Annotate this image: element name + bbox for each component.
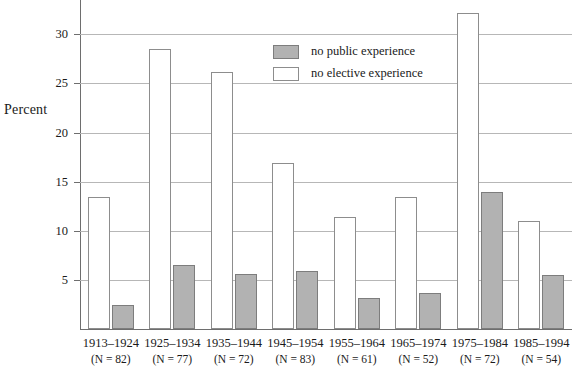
y-axis-tick-label: 30 (28, 28, 68, 41)
y-axis-tick-label: 20 (28, 126, 68, 139)
x-axis-category-range: 1985–1994 (503, 336, 581, 352)
bar (88, 197, 110, 329)
bar (518, 221, 540, 329)
legend-label: no elective experience (311, 66, 423, 81)
y-axis-tick (74, 83, 80, 84)
chart-legend: no public experienceno elective experien… (273, 42, 463, 86)
x-axis-category-n: (N = 54) (503, 352, 581, 366)
bar (419, 293, 441, 329)
y-axis-tick-label: 15 (28, 175, 68, 188)
bar (149, 49, 171, 329)
legend-label: no public experience (311, 44, 415, 59)
bar (211, 72, 233, 329)
y-axis-tick (74, 231, 80, 232)
y-axis-tick (74, 280, 80, 281)
y-axis-tick (74, 133, 80, 134)
legend-item: no elective experience (273, 64, 463, 83)
y-axis-tick (74, 34, 80, 35)
bar (334, 217, 356, 329)
bar (358, 298, 380, 329)
gridline (80, 34, 572, 35)
bar (235, 274, 257, 329)
x-axis-category-label: 1985–1994(N = 54) (503, 336, 581, 366)
bar (481, 192, 503, 329)
bar (112, 305, 134, 329)
bar (296, 271, 318, 329)
bar (542, 275, 564, 329)
bar (395, 197, 417, 329)
y-axis-title: Percent (4, 102, 47, 118)
legend-swatch (273, 67, 299, 81)
legend-swatch (273, 45, 299, 59)
y-axis-tick-label: 5 (28, 274, 68, 287)
x-axis-line (80, 329, 572, 330)
y-axis-tick-label: 10 (28, 225, 68, 238)
y-axis-tick-label: 25 (28, 77, 68, 90)
legend-item: no public experience (273, 42, 463, 61)
bar (173, 265, 195, 329)
bar (272, 163, 294, 329)
y-axis-tick (74, 182, 80, 183)
